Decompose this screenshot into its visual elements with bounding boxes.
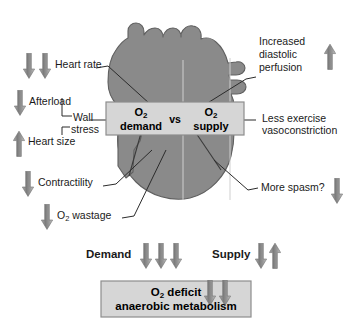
afterload-arrow-1 xyxy=(14,90,25,115)
o2-wastage-arrow-1 xyxy=(41,204,52,229)
o2-demand-o: O xyxy=(134,106,143,118)
o2-supply-sub: 2 xyxy=(213,111,217,120)
label-increased-diastolic-perfusion-line3: perfusion xyxy=(259,62,302,74)
summary-demand-label: Demand xyxy=(86,249,131,261)
o2-supply-o: O xyxy=(204,106,213,118)
summary-arrows xyxy=(140,243,280,268)
heart-rate-arrow-2 xyxy=(39,53,50,78)
heart-size-arrow-1 xyxy=(13,131,24,156)
o2-supply-label: O2 supply xyxy=(182,106,240,132)
label-increased-diastolic-perfusion-line2: diastolic xyxy=(259,49,297,61)
outcome-line2: anaerobic metabolism xyxy=(115,300,236,312)
o2-supply-word: supply xyxy=(193,120,228,132)
label-afterload: Afterload xyxy=(29,96,71,108)
label-wall: Wall xyxy=(73,112,93,124)
figure-canvas: Heart rate Afterload Wall stress Heart s… xyxy=(0,0,349,326)
outcome-o: O xyxy=(151,286,160,298)
supply-arrow-2 xyxy=(269,243,280,268)
summary-supply-label: Supply xyxy=(212,249,250,261)
label-stress: stress xyxy=(71,124,99,136)
label-o2-wastage: O2 wastage xyxy=(57,210,111,223)
label-less-exercise-vasoconstriction-line1: Less exercise xyxy=(262,113,326,125)
o2-demand-word: demand xyxy=(120,120,162,132)
label-heart-size: Heart size xyxy=(28,136,75,148)
demand-arrow-1 xyxy=(140,243,151,268)
o2-wastage-word: wastage xyxy=(69,209,111,221)
o2-wastage-o: O xyxy=(57,209,65,221)
demand-arrow-3 xyxy=(170,243,181,268)
o2-wastage-sub: 2 xyxy=(65,214,69,223)
o2-demand-sub: 2 xyxy=(143,111,147,120)
outcome-word: deficit xyxy=(167,286,201,298)
heart-rate-arrow-1 xyxy=(23,53,34,78)
contractility-arrow-1 xyxy=(22,171,33,196)
supply-arrow-1 xyxy=(255,243,266,268)
label-heart-rate: Heart rate xyxy=(55,59,102,71)
increased-diastolic-perfusion-arrow-1 xyxy=(324,44,335,69)
label-less-exercise-vasoconstriction-line2: vasoconstriction xyxy=(262,125,337,137)
label-more-spasm: More spasm? xyxy=(261,182,325,194)
outcome-label: O2 deficit anaerobic metabolism xyxy=(101,286,251,312)
outcome-sub: 2 xyxy=(160,291,164,300)
more-spasm-arrow-1 xyxy=(331,178,342,203)
label-increased-diastolic-perfusion-line1: Increased xyxy=(259,36,305,48)
label-contractility: Contractility xyxy=(38,177,93,189)
demand-arrow-2 xyxy=(155,243,166,268)
